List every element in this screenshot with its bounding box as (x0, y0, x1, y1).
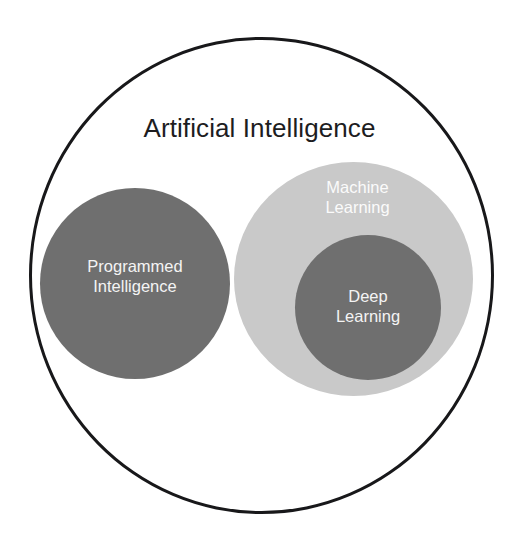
label-deep-learning: Deep Learning (295, 286, 441, 326)
label-programmed-intelligence: Programmed Intelligence (40, 256, 230, 296)
label-machine-learning: Machine Learning (290, 177, 425, 217)
venn-diagram: Artificial Intelligence Programmed Intel… (0, 0, 519, 543)
label-artificial-intelligence: Artificial Intelligence (0, 113, 519, 145)
